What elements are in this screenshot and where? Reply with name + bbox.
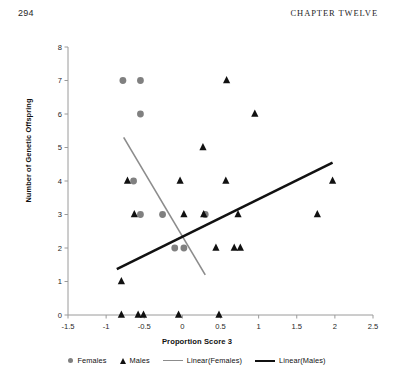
trendline-linearmales (117, 163, 333, 270)
legend-item-males[interactable]: Males (120, 356, 150, 365)
legend-label: Females (77, 356, 106, 365)
series-males-point (140, 311, 147, 318)
legend-item-linearfemales[interactable]: Linear(Females) (163, 356, 242, 365)
series-males-point (314, 210, 321, 217)
legend-gray-line-icon (163, 360, 183, 361)
y-axis-tick-label: 3 (58, 210, 62, 219)
x-axis-tick-label: -0.5 (138, 322, 151, 331)
series-females-point (137, 211, 144, 218)
x-axis-tick-label: 2.5 (368, 322, 379, 331)
series-males-point (180, 210, 187, 217)
series-males-point (175, 311, 182, 318)
series-males-point (212, 244, 219, 251)
x-axis-tick-label: 1.5 (291, 322, 302, 331)
chart-plot-area: 012345678-1.5-1-0.500.511.522.5 (0, 26, 394, 356)
y-axis-tick-label: 8 (58, 43, 62, 52)
series-males-point (124, 177, 131, 184)
series-males-point (231, 244, 238, 251)
trendline-linearfemales (124, 137, 206, 274)
series-males-point (118, 277, 125, 284)
series-males-point (199, 143, 206, 150)
x-axis-title: Proportion Score 3 (0, 337, 394, 346)
series-males-point (215, 311, 222, 318)
series-females-point (120, 77, 127, 84)
legend-label: Linear(Females) (187, 356, 242, 365)
series-males-point (237, 244, 244, 251)
series-females-point (181, 245, 188, 252)
x-axis-tick-label: 2 (333, 322, 337, 331)
x-axis-tick-label: 0.5 (215, 322, 226, 331)
page-number: 294 (18, 8, 34, 18)
legend-label: Linear(Males) (279, 356, 325, 365)
x-axis-tick-label: 0 (180, 322, 184, 331)
scatter-chart-figure: 012345678-1.5-1-0.500.511.522.5 Number o… (0, 26, 394, 384)
y-axis-tick-label: 2 (58, 244, 62, 253)
chart-legend: FemalesMalesLinear(Females)Linear(Males) (0, 356, 394, 365)
y-axis-title: Number of Genetic Offspring (24, 61, 33, 241)
series-males-point (251, 110, 258, 117)
legend-triangle-icon (120, 358, 126, 364)
series-males-point (329, 177, 336, 184)
y-axis-tick-label: 1 (58, 277, 62, 286)
series-females-point (137, 111, 144, 118)
x-axis-tick-label: -1 (103, 322, 110, 331)
legend-item-linearmales[interactable]: Linear(Males) (255, 356, 325, 365)
y-axis-tick-label: 0 (58, 311, 62, 320)
y-axis-tick-label: 6 (58, 110, 62, 119)
legend-item-females[interactable]: Females (68, 356, 106, 365)
x-axis-tick-label: 1 (257, 322, 261, 331)
legend-label: Males (130, 356, 150, 365)
y-axis-tick-label: 4 (58, 177, 62, 186)
series-males-point (176, 177, 183, 184)
y-axis-tick-label: 5 (58, 143, 62, 152)
series-females-point (130, 178, 137, 185)
x-axis-tick-label: -1.5 (61, 322, 74, 331)
series-females-point (171, 245, 178, 252)
series-males-point (118, 311, 125, 318)
chapter-title: CHAPTER TWELVE (291, 8, 378, 18)
legend-black-line-icon (255, 360, 275, 362)
series-males-point (222, 177, 229, 184)
series-males-point (131, 210, 138, 217)
page-header: 294 CHAPTER TWELVE (0, 0, 394, 26)
series-females-point (137, 77, 144, 84)
series-males-point (223, 76, 230, 83)
series-females-point (159, 211, 166, 218)
legend-circle-icon (68, 358, 73, 363)
y-axis-tick-label: 7 (58, 76, 62, 85)
